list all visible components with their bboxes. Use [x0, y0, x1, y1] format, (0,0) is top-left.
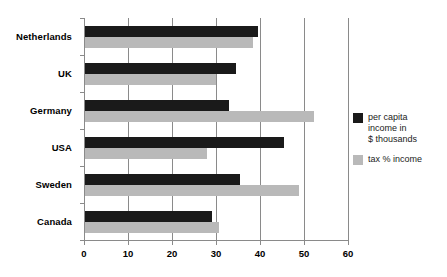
- y-tick: [80, 166, 85, 167]
- bar: [84, 111, 314, 122]
- bar: [84, 74, 216, 85]
- x-tick-30: [216, 240, 217, 245]
- category-label-2: Germany: [0, 106, 72, 116]
- legend-entry-tax-percent-income: tax % income: [353, 154, 445, 166]
- x-tick-60: [348, 240, 349, 245]
- x-tick-label-60: 60: [328, 248, 368, 259]
- category-label-3: USA: [0, 143, 72, 153]
- category-label-1: UK: [0, 69, 72, 79]
- bar-group: [84, 211, 348, 233]
- bars-layer: [84, 18, 348, 240]
- x-tick-label-20: 20: [152, 248, 192, 259]
- legend-swatch-per-capita-income: [353, 113, 363, 123]
- y-tick: [80, 55, 85, 56]
- chart-legend: per capita income in $ thousands tax % i…: [353, 112, 445, 175]
- x-tick-20: [172, 240, 173, 245]
- x-tick-label-40: 40: [240, 248, 280, 259]
- y-tick: [80, 92, 85, 93]
- category-label-0: Netherlands: [0, 32, 72, 42]
- bar-group: [84, 100, 348, 122]
- bar-group: [84, 63, 348, 85]
- bar: [84, 37, 253, 48]
- bar: [84, 185, 299, 196]
- x-tick-10: [128, 240, 129, 245]
- bar: [84, 100, 229, 111]
- x-tick-label-0: 0: [64, 248, 104, 259]
- y-tick: [80, 203, 85, 204]
- bar: [84, 137, 284, 148]
- y-tick: [80, 18, 85, 19]
- category-label-5: Canada: [0, 217, 72, 227]
- bar-group: [84, 26, 348, 48]
- x-axis: 0102030405060: [84, 240, 348, 270]
- y-tick: [80, 129, 85, 130]
- bar: [84, 63, 236, 74]
- gridline-60: [348, 18, 349, 240]
- bar: [84, 174, 240, 185]
- bar: [84, 211, 212, 222]
- bar: [84, 26, 258, 37]
- legend-label-per-capita-income: per capita income in $ thousands: [368, 112, 445, 145]
- x-tick-50: [304, 240, 305, 245]
- x-tick-label-30: 30: [196, 248, 236, 259]
- legend-swatch-tax-percent-income: [353, 155, 363, 165]
- category-label-4: Sweden: [0, 180, 72, 190]
- x-tick-label-50: 50: [284, 248, 324, 259]
- x-tick-40: [260, 240, 261, 245]
- bar: [84, 148, 207, 159]
- legend-entry-per-capita-income: per capita income in $ thousands: [353, 112, 445, 145]
- legend-label-tax-percent-income: tax % income: [368, 154, 445, 165]
- y-tick: [80, 240, 85, 241]
- bar: [84, 222, 219, 233]
- category-axis: Netherlands UK Germany USA Sweden Canada: [0, 18, 78, 240]
- bar-chart: Netherlands UK Germany USA Sweden Canada…: [0, 0, 447, 277]
- bar-group: [84, 174, 348, 196]
- x-tick-label-10: 10: [108, 248, 148, 259]
- bar-group: [84, 137, 348, 159]
- plot-area: [84, 18, 348, 240]
